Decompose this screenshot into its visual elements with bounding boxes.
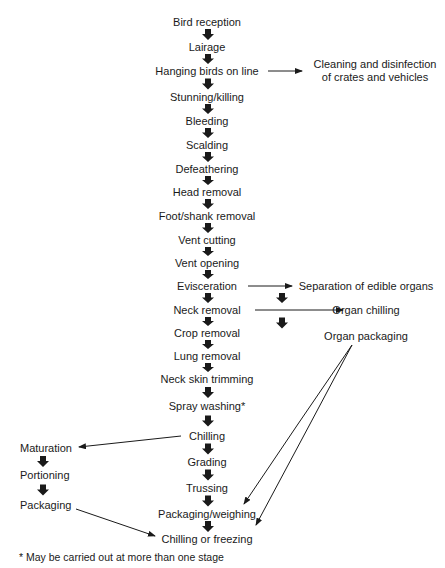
step-neck-skin-trimming: Neck skin trimming — [161, 373, 254, 385]
step-scalding: Scalding — [186, 139, 228, 151]
down-arrow-icon — [202, 521, 214, 532]
down-arrow-icon — [202, 340, 214, 349]
arrow-organ-split-a — [298, 345, 352, 424]
step-grading: Grading — [187, 456, 226, 468]
down-arrow-icon — [202, 104, 214, 114]
step-head-removal: Head removal — [173, 186, 241, 198]
down-arrow-icon — [202, 496, 214, 507]
down-arrow-icon — [202, 293, 214, 303]
down-arrow-icon — [276, 318, 288, 329]
step-hanging-birds-on-line: Hanging birds on line — [155, 65, 258, 77]
down-arrow-icon — [202, 176, 214, 185]
step-bird-reception: Bird reception — [173, 16, 241, 28]
step-neck-removal: Neck removal — [173, 304, 240, 316]
arrow-chilling-to-maturation — [79, 436, 181, 447]
down-arrow-icon — [202, 223, 214, 233]
step-crop-removal: Crop removal — [174, 327, 240, 339]
down-arrow-icon — [202, 387, 214, 398]
down-arrow-icon — [202, 128, 214, 138]
step-chilling-or-freezing: Chilling or freezing — [161, 533, 252, 545]
arrow-packaging-to-chilling-freezing — [76, 509, 155, 536]
left-step-maturation: Maturation — [20, 442, 72, 454]
step-lairage: Lairage — [189, 41, 226, 53]
left-step-portioning: Portioning — [20, 469, 70, 481]
down-arrow-icon — [202, 270, 214, 279]
down-arrow-icon — [202, 199, 214, 209]
down-arrow-icon — [276, 293, 288, 303]
down-arrow-icon — [202, 363, 214, 372]
left-step-packaging: Packaging — [20, 499, 71, 511]
down-arrow-icon — [37, 485, 49, 496]
down-arrow-icon — [202, 470, 214, 481]
side-step-cleaning-line1: Cleaning and disinfection — [314, 58, 437, 70]
down-arrow-icon — [202, 54, 214, 64]
step-stunning-killing: Stunning/killing — [170, 91, 244, 103]
organ-step-organ-packaging: Organ packaging — [324, 330, 408, 342]
organ-step-separation-of-edible-organs: Separation of edible organs — [299, 280, 434, 292]
step-defeathering: Defeathering — [176, 163, 239, 175]
down-arrow-icon — [37, 456, 49, 467]
step-vent-cutting: Vent cutting — [178, 234, 236, 246]
organ-step-organ-chilling: Organ chilling — [332, 304, 399, 316]
side-step-cleaning-line2: of crates and vehicles — [322, 71, 428, 83]
down-arrow-icon — [202, 247, 214, 256]
down-arrow-icon — [202, 152, 214, 162]
down-arrow-icon — [202, 416, 214, 427]
step-trussing: Trussing — [186, 482, 228, 494]
step-packaging-weighing: Packaging/weighing — [158, 508, 256, 520]
arrow-organ-split-b — [310, 345, 352, 424]
footnote: * May be carried out at more than one st… — [19, 551, 224, 563]
step-foot-shank-removal: Foot/shank removal — [159, 210, 256, 222]
down-arrow-icon — [202, 29, 214, 40]
step-vent-opening: Vent opening — [175, 257, 239, 269]
down-arrow-icon — [202, 444, 214, 455]
down-arrow-icon — [202, 79, 214, 90]
arrow-organ-to-packaging-weighing — [244, 424, 298, 504]
down-arrow-icon — [202, 317, 214, 326]
step-bleeding: Bleeding — [186, 115, 229, 127]
step-chilling: Chilling — [189, 430, 225, 442]
step-spray-washing: Spray washing* — [169, 400, 245, 412]
step-lung-removal: Lung removal — [174, 350, 241, 362]
step-evisceration: Evisceration — [177, 280, 237, 292]
